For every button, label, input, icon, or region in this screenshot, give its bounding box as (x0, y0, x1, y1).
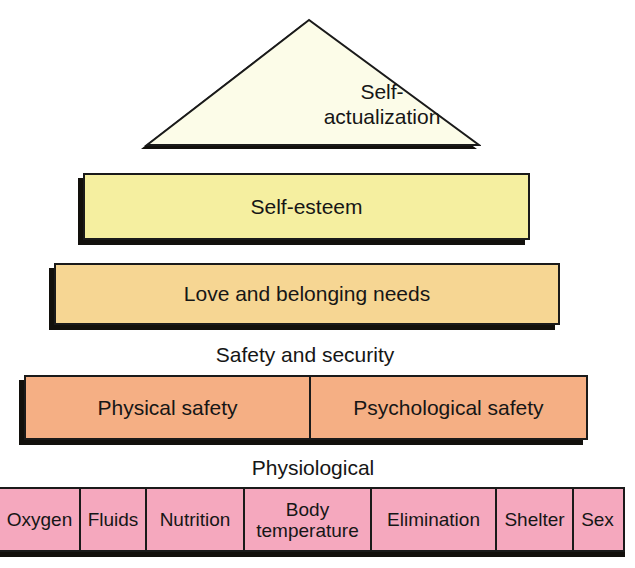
love-and-belonging-cell: Love and belonging needs (56, 265, 558, 323)
physiological-cell-oxygen: Oxygen (0, 489, 79, 550)
body-temperature-label: Body temperature (256, 499, 358, 541)
physiological-cell-body-temperature: Body temperature (243, 489, 370, 550)
maslow-hierarchy-diagram: Self- actualization Self-esteem Love and… (0, 0, 635, 568)
self-actualization-label-line1: Self- (360, 80, 403, 103)
shelter-label: Shelter (504, 509, 564, 530)
psychological-safety-label: Psychological safety (353, 396, 543, 420)
physiological-caption: Physiological (0, 456, 626, 480)
physiological-cell-elimination: Elimination (370, 489, 495, 550)
physical-safety-cell: Physical safety (26, 377, 309, 438)
tier-self-esteem: Self-esteem (83, 173, 530, 240)
psychological-safety-cell: Psychological safety (309, 377, 586, 438)
love-and-belonging-label: Love and belonging needs (184, 282, 430, 306)
safety-and-security-caption: Safety and security (0, 343, 610, 367)
self-esteem-label: Self-esteem (250, 195, 362, 219)
oxygen-label: Oxygen (7, 509, 72, 530)
tier-love-and-belonging: Love and belonging needs (54, 263, 560, 325)
physiological-cell-sex: Sex (572, 489, 621, 550)
physiological-cell-nutrition: Nutrition (145, 489, 243, 550)
self-actualization-label-line2: actualization (324, 105, 441, 128)
physiological-cell-shelter: Shelter (495, 489, 572, 550)
self-actualization-label: Self- actualization (311, 79, 453, 129)
tier-self-actualization: Self- actualization (139, 17, 481, 153)
tier-physiological: Oxygen Fluids Nutrition Body temperature… (0, 487, 625, 552)
fluids-label: Fluids (88, 509, 139, 530)
sex-label: Sex (581, 509, 614, 530)
elimination-label: Elimination (387, 509, 480, 530)
nutrition-label: Nutrition (160, 509, 231, 530)
body-temperature-label-line1: Body (286, 499, 329, 520)
self-esteem-cell: Self-esteem (85, 175, 528, 238)
physical-safety-label: Physical safety (97, 396, 237, 420)
physiological-cell-fluids: Fluids (79, 489, 145, 550)
tier-safety-and-security: Physical safety Psychological safety (24, 375, 588, 440)
body-temperature-label-line2: temperature (256, 520, 358, 541)
